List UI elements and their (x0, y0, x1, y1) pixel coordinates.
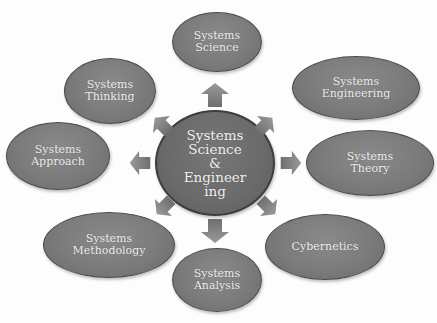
node-label: Systems Methodology (73, 233, 146, 257)
node-systems-engineering: Systems Engineering (292, 56, 420, 120)
node-label: Cybernetics (292, 241, 359, 253)
arrow-up-icon (201, 83, 229, 107)
diagram-canvas: Systems Science Systems Engineering Syst… (0, 0, 437, 323)
node-systems-theory: Systems Theory (306, 130, 434, 196)
node-systems-methodology: Systems Methodology (43, 212, 175, 278)
node-label: Systems Analysis (194, 268, 240, 292)
arrow-down-icon (201, 219, 229, 243)
node-systems-science: Systems Science (172, 12, 262, 72)
node-cybernetics: Cybernetics (265, 214, 385, 280)
arrow-left-icon (128, 151, 152, 175)
center-label: Systems Science & Engineer ing (184, 128, 247, 198)
node-systems-thinking: Systems Thinking (64, 58, 156, 124)
node-label: Systems Thinking (85, 79, 134, 103)
node-systems-approach: Systems Approach (6, 122, 110, 190)
node-label: Systems Engineering (322, 76, 391, 100)
node-label: Systems Theory (347, 151, 393, 175)
node-label: Systems Approach (31, 144, 85, 168)
node-systems-analysis: Systems Analysis (172, 248, 262, 312)
arrow-right-icon (279, 151, 303, 175)
node-label: Systems Science (194, 30, 240, 54)
